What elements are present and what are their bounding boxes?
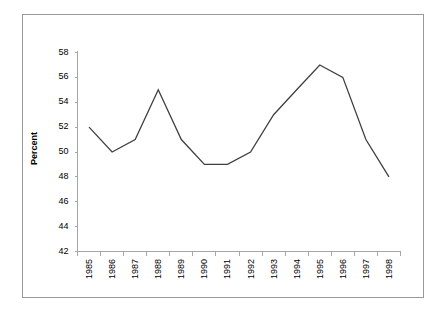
data-series-group: [89, 65, 389, 177]
axes-group: [75, 51, 401, 256]
series-line-percent: [89, 65, 389, 177]
chart-plot-area: [0, 0, 443, 315]
chart-figure: Percent 585654525048464442 1985198619871…: [0, 0, 443, 315]
